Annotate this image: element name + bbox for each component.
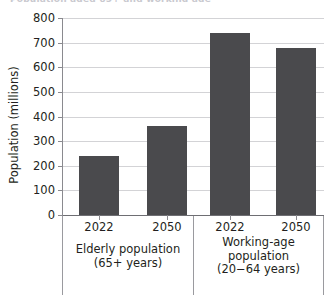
x-axis-tick-label: 2050 — [152, 220, 181, 234]
y-axis-tick-label: 600 — [33, 60, 55, 74]
bar — [147, 126, 187, 215]
y-axis-tick — [58, 166, 63, 167]
y-axis-tick-label: 300 — [33, 134, 55, 148]
bar-chart-figure: Population aged 65+ and working age Popu… — [0, 0, 334, 299]
group-separator — [323, 216, 324, 295]
y-axis-tick-label: 400 — [33, 110, 55, 124]
group-caption-line: population — [194, 250, 323, 264]
group-separator — [193, 216, 194, 295]
x-axis-tick-label: 2022 — [84, 220, 113, 234]
y-axis-tick — [58, 43, 63, 44]
y-axis-tick-label: 100 — [33, 183, 55, 197]
group-caption: Elderly population(65+ years) — [63, 243, 193, 270]
y-axis-tick-label: 200 — [33, 159, 55, 173]
y-axis-tick-label: 700 — [33, 36, 55, 50]
y-axis-tick-label: 0 — [48, 208, 55, 222]
plot-area: 8007006005004003002001000 — [62, 18, 324, 215]
y-axis-tick — [58, 18, 63, 19]
grid-line — [62, 43, 324, 44]
bar — [79, 156, 119, 215]
group-caption-line: Elderly population — [63, 243, 193, 257]
group-caption: Working-agepopulation(20−64 years) — [194, 236, 323, 277]
group-caption-line: Working-age — [194, 236, 323, 250]
group-caption-line: (65+ years) — [63, 257, 193, 271]
bar — [276, 48, 316, 215]
cropped-title-remnant: Population aged 65+ and working age — [10, 0, 310, 2]
y-axis-tick — [58, 141, 63, 142]
y-axis-title: Population (millions) — [7, 25, 21, 225]
x-axis-tick-label: 2022 — [215, 220, 244, 234]
y-axis-tick-label: 500 — [33, 85, 55, 99]
group-separator — [62, 216, 63, 295]
grid-line — [62, 18, 324, 19]
y-axis-tick — [58, 67, 63, 68]
y-axis-tick — [58, 92, 63, 93]
group-caption-line: (20−64 years) — [194, 263, 323, 277]
x-axis-tick-label: 2050 — [281, 220, 310, 234]
y-axis-tick-label: 800 — [33, 11, 55, 25]
bar — [210, 33, 250, 215]
y-axis-tick — [58, 117, 63, 118]
y-axis-tick — [58, 190, 63, 191]
